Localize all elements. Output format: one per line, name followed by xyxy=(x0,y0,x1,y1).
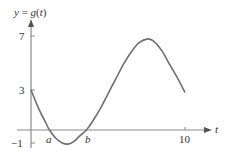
point-b-label: b xyxy=(85,133,91,145)
y-axis-arrow-icon xyxy=(28,19,34,27)
t-axis-label: t xyxy=(215,123,219,135)
y-tick-label-neg1: −1 xyxy=(11,137,23,149)
t-tick-label-10: 10 xyxy=(179,133,191,145)
y-axis-label: y = g(t) xyxy=(13,6,47,19)
t-axis-arrow-icon xyxy=(204,127,212,133)
y-tick-label-7: 7 xyxy=(19,30,25,42)
g-curve xyxy=(31,39,185,144)
point-a-label: a xyxy=(46,133,52,145)
chart-canvas: y = g(t) 7 3 −1 10 t a b xyxy=(0,0,225,153)
y-tick-label-3: 3 xyxy=(19,84,25,96)
